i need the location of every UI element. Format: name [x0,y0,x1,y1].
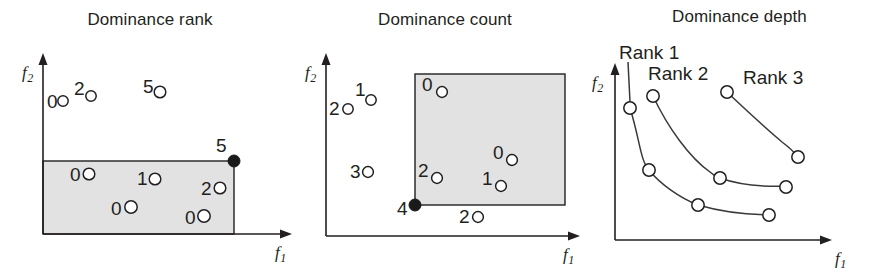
data-point [125,201,137,213]
x-axis-label-subscript: 1 [280,251,286,265]
y-axis-label-subscript: 2 [310,71,316,85]
panel-dominance-depth: Dominance depth [590,0,889,278]
reference-point-label: 4 [397,199,408,218]
x-axis-arrowhead [568,232,580,241]
rank-2-label: Rank 2 [648,64,708,83]
point-label: 2 [329,99,340,118]
rank-1-point [763,209,775,221]
data-point [366,95,376,105]
rank-2-point [647,90,659,102]
panel-dominance-count: Dominance count 2 1 3 0 [300,0,590,278]
data-point [86,91,96,101]
reference-point-marker [228,155,240,167]
x-axis-arrowhead [280,230,292,239]
reference-point-label: 5 [216,136,227,155]
point-label: 1 [137,169,148,188]
x-axis-arrowhead [820,236,832,245]
rank-1-point [624,102,636,114]
rank-1-point [643,164,655,176]
data-point [496,181,507,192]
rank-3-point [792,151,804,163]
data-point [507,155,518,166]
rank-3-front-curve [727,92,798,157]
rank-3-point [721,86,733,98]
dominance-figure: Dominance rank 0 2 5 0 [0,0,889,278]
dominance-rank-plot [0,0,300,278]
point-label: 3 [350,162,361,181]
data-point [363,167,374,178]
data-point [343,104,353,114]
point-label: 2 [201,179,212,198]
data-point [149,173,161,185]
data-point [58,96,68,106]
point-label: 1 [355,80,366,99]
x-axis-label-subscript: 1 [840,257,846,271]
y-axis-label-subscript: 2 [27,71,33,85]
point-label: 0 [111,199,122,218]
rank-1-label: Rank 1 [619,43,679,62]
y-axis-label-subscript: 2 [597,81,603,95]
point-label: 2 [74,79,85,98]
rank-1-front-curve [630,108,775,215]
x-axis-label: f1 [835,249,846,272]
point-label: 0 [70,165,81,184]
point-label: 0 [493,143,504,162]
point-label: 1 [482,169,493,188]
data-point [432,173,443,184]
dominance-count-plot [300,0,590,278]
point-label: 0 [185,208,196,227]
point-label: 0 [422,75,433,94]
point-label: 2 [418,161,429,180]
data-point [214,182,226,194]
point-label: 2 [459,207,470,226]
y-axis-arrowhead [611,63,620,75]
reference-point-marker [409,199,421,211]
panel-dominance-rank: Dominance rank 0 2 5 0 [0,0,300,278]
rank-3-label: Rank 3 [743,68,803,87]
x-axis-label: f1 [563,245,574,268]
y-axis-label: f2 [22,63,33,86]
data-point [154,86,166,98]
data-point [198,210,210,222]
y-axis-arrowhead [39,53,48,65]
point-label: 0 [47,92,58,111]
y-axis-label: f2 [305,63,316,86]
x-axis-label: f1 [275,243,286,266]
y-axis-arrowhead [322,53,331,65]
point-label: 5 [143,77,154,96]
rank-1-point [692,199,704,211]
rank-2-point [714,172,726,184]
y-axis-label: f2 [592,73,603,96]
data-point [437,87,448,98]
data-point [83,168,95,180]
x-axis-label-subscript: 1 [568,253,574,267]
data-point [473,212,484,223]
rank-2-point [780,181,792,193]
rank-1-leader-line [628,62,630,102]
